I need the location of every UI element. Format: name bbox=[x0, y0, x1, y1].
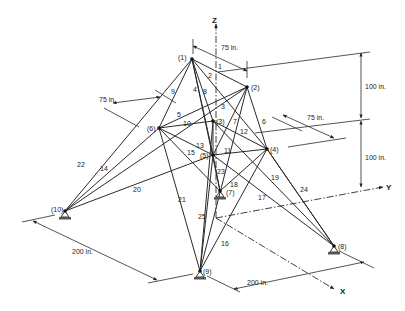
member-label: 16 bbox=[221, 240, 229, 247]
node-label: (3) bbox=[216, 118, 225, 126]
member-label: 15 bbox=[187, 149, 195, 156]
node-point bbox=[211, 153, 215, 157]
truss-member-24 bbox=[267, 149, 334, 246]
member-label: 12 bbox=[240, 128, 248, 135]
member-label: 10 bbox=[183, 120, 191, 127]
member-labels: (1)(2)(3)(4)(5)(6)(7)(8)(9)(10)123456789… bbox=[51, 54, 347, 276]
dimension-label: 200 in. bbox=[247, 279, 268, 286]
member-label: 3 bbox=[221, 103, 225, 110]
truss-member-8 bbox=[192, 59, 267, 149]
member-label: 25 bbox=[198, 213, 206, 220]
node-label: (2) bbox=[251, 84, 260, 92]
dimension-label: 75 in. bbox=[221, 44, 238, 51]
member-label: 19 bbox=[271, 174, 279, 181]
node-label: (9) bbox=[203, 268, 212, 276]
node-point bbox=[157, 126, 161, 130]
member-label: 4 bbox=[193, 86, 197, 93]
supports bbox=[59, 191, 340, 280]
member-label: 23 bbox=[217, 168, 225, 175]
member-label: 22 bbox=[77, 161, 85, 168]
y-axis-label: Y bbox=[386, 183, 392, 192]
member-label: 18 bbox=[230, 181, 238, 188]
node-point bbox=[245, 85, 249, 89]
node-label: (10) bbox=[51, 206, 63, 214]
member-label: 6 bbox=[262, 118, 266, 125]
truss-member-20 bbox=[65, 155, 213, 211]
node-point bbox=[63, 209, 67, 213]
member-label: 7 bbox=[233, 118, 237, 125]
member-label: 17 bbox=[258, 194, 266, 201]
member-label: 1 bbox=[218, 63, 222, 70]
node-point bbox=[211, 119, 215, 123]
node-point bbox=[198, 269, 202, 273]
member-label: 11 bbox=[224, 147, 231, 154]
x-axis-label: X bbox=[340, 287, 346, 296]
node-label: (5) bbox=[200, 152, 209, 160]
node-point bbox=[332, 244, 336, 248]
truss-member-11 bbox=[213, 149, 267, 155]
member-label: 8 bbox=[203, 88, 207, 95]
node-point bbox=[265, 147, 269, 151]
dimension-label: 75 in. bbox=[99, 96, 116, 103]
member-label: 9 bbox=[171, 88, 175, 95]
node-label: (4) bbox=[270, 146, 279, 154]
node-point bbox=[190, 57, 194, 61]
member-label: 14 bbox=[100, 165, 108, 172]
truss-member-14 bbox=[65, 128, 159, 211]
dimension-label: 200 in. bbox=[72, 248, 93, 255]
dimension-label: 100 in. bbox=[365, 154, 386, 161]
dimension-label: 100 in. bbox=[365, 83, 386, 90]
dimension-label: 75 in. bbox=[307, 114, 324, 121]
truss-diagram: Z Y X bbox=[0, 0, 405, 311]
member-label: 5 bbox=[177, 111, 181, 118]
member-label: 13 bbox=[196, 142, 204, 149]
node-label: (7) bbox=[226, 189, 235, 197]
node-label: (8) bbox=[338, 243, 347, 251]
node-label: (6) bbox=[147, 125, 156, 133]
z-axis-label: Z bbox=[212, 16, 217, 25]
member-label: 21 bbox=[178, 196, 186, 203]
member-label: 2 bbox=[208, 72, 212, 79]
x-axis-line bbox=[216, 218, 334, 289]
node-label: (1) bbox=[178, 54, 187, 62]
truss-member-9 bbox=[159, 59, 192, 128]
member-label: 20 bbox=[133, 186, 141, 193]
truss-member bbox=[213, 155, 334, 246]
node-point bbox=[218, 189, 222, 193]
member-label: 24 bbox=[300, 186, 308, 193]
